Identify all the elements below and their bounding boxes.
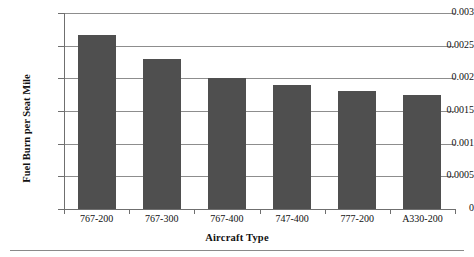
bars-layer [64,13,455,209]
y-axis-title-container: Fuel Burn per Seat Mile [6,20,26,190]
bar [208,78,246,209]
x-axis-category-label: A330-200 [382,213,462,224]
bar [273,85,311,209]
bar-chart-figure: Fuel Burn per Seat Mile 00.00050.0010.00… [0,0,474,257]
page-divider-rule [10,250,464,251]
bar [78,35,116,209]
y-axis-title: Fuel Burn per Seat Mile [21,49,32,209]
x-axis-title: Aircraft Type [0,232,474,243]
x-axis-tick [455,209,456,214]
bar [143,59,181,209]
bar [403,95,441,209]
bar [338,91,376,209]
